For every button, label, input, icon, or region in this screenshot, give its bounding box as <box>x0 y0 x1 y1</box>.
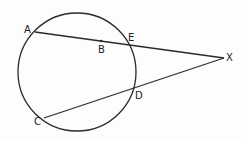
point-b-dot <box>100 40 103 43</box>
circle <box>18 13 136 131</box>
label-x: X <box>226 53 233 63</box>
label-a: A <box>24 25 31 35</box>
secant-c-x <box>44 58 224 118</box>
label-c: C <box>34 117 41 127</box>
label-e: E <box>128 33 134 43</box>
diagram-canvas: A B E X D C <box>0 0 246 141</box>
label-d: D <box>135 91 143 101</box>
label-b: B <box>98 45 105 55</box>
